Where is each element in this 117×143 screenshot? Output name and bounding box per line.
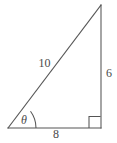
label-base-leg: 8 [53, 127, 59, 141]
triangle-side-hypotenuse [8, 5, 101, 128]
label-hypotenuse: 10 [39, 56, 51, 70]
triangle-figure: 10 6 8 θ [0, 0, 117, 143]
label-vertical-leg: 6 [106, 66, 112, 80]
right-angle-marker-icon [89, 117, 101, 129]
triangle-diagram-svg: 10 6 8 θ [0, 0, 117, 143]
label-angle-theta: θ [21, 113, 27, 127]
angle-arc-icon [31, 111, 37, 128]
